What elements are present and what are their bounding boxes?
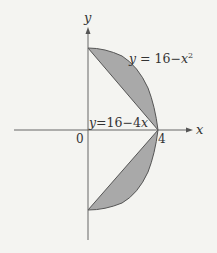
- y-axis-label: y: [83, 10, 92, 25]
- parabola-label-rest: = 16−: [136, 51, 181, 66]
- y-axis-arrow-icon: [86, 27, 91, 34]
- line-label: y=16−4x: [88, 115, 148, 130]
- lower-shaded-region: [88, 130, 158, 210]
- x-axis-label: x: [196, 122, 204, 137]
- parabola-exponent: 2: [188, 51, 193, 60]
- diagram-svg: y x 0 4 y = 16−x2 y=16−4x: [0, 0, 217, 253]
- diagram-canvas: y x 0 4 y = 16−x2 y=16−4x: [0, 0, 217, 253]
- parabola-label: y = 16−x2: [128, 51, 193, 66]
- x-tick-4-label: 4: [158, 132, 166, 146]
- origin-label: 0: [76, 132, 84, 146]
- x-axis-arrow-icon: [186, 128, 193, 133]
